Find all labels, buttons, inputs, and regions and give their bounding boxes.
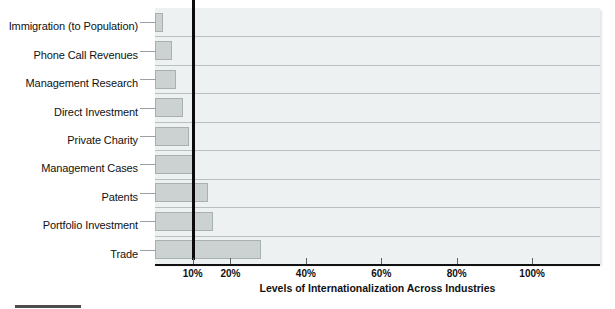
category-label-row: Management Research — [0, 69, 138, 97]
plot-area — [155, 8, 600, 264]
bar — [155, 41, 172, 60]
category-label-row: Patents — [0, 183, 138, 211]
label-leader-line — [140, 221, 156, 222]
category-label: Portfolio Investment — [43, 219, 138, 231]
category-label-row: Direct Investment — [0, 98, 138, 126]
y-axis-labels: Immigration (to Population)Phone Call Re… — [0, 10, 138, 262]
x-axis-tick — [193, 258, 194, 264]
x-axis-tick-label: 10% — [183, 268, 203, 279]
x-axis-tick-label: 80% — [447, 268, 467, 279]
gridline — [155, 122, 600, 123]
bar — [155, 70, 176, 89]
category-label-row: Immigration (to Population) — [0, 12, 138, 40]
bar — [155, 155, 195, 174]
x-axis-line — [155, 264, 600, 266]
category-label: Trade — [110, 248, 138, 260]
x-axis-tick — [381, 258, 382, 264]
bar — [155, 240, 261, 259]
bar — [155, 13, 163, 32]
bar — [155, 98, 183, 117]
x-axis-tick — [532, 258, 533, 264]
category-label-row: Portfolio Investment — [0, 211, 138, 239]
x-axis-tick-label: 40% — [296, 268, 316, 279]
label-leader-line — [140, 193, 156, 194]
x-axis-tick-label: 60% — [371, 268, 391, 279]
x-axis-tick-label: 20% — [220, 268, 240, 279]
category-label-row: Private Charity — [0, 126, 138, 154]
gridline — [155, 179, 600, 180]
category-label-row: Phone Call Revenues — [0, 41, 138, 69]
category-label: Patents — [101, 191, 138, 203]
category-label: Management Cases — [41, 162, 138, 174]
category-label: Direct Investment — [54, 106, 138, 118]
category-label: Phone Call Revenues — [33, 49, 138, 61]
footer-rule — [15, 305, 81, 308]
bar — [155, 212, 213, 231]
x-axis-title: Levels of Internationalization Across In… — [155, 282, 600, 294]
x-axis-tick — [306, 258, 307, 264]
bar — [155, 183, 208, 202]
x-axis-tick — [230, 258, 231, 264]
label-leader-line — [140, 79, 156, 80]
label-leader-line — [140, 22, 156, 23]
x-axis-tick — [457, 258, 458, 264]
category-label: Management Research — [26, 77, 138, 89]
chart-figure: Immigration (to Population)Phone Call Re… — [0, 0, 615, 309]
category-label: Immigration (to Population) — [9, 20, 138, 32]
bar — [155, 127, 189, 146]
label-leader-line — [140, 108, 156, 109]
label-leader-line — [140, 136, 156, 137]
category-label-row: Trade — [0, 240, 138, 268]
gridline — [155, 36, 600, 37]
reference-line-10-percent — [192, 0, 195, 260]
gridline — [155, 207, 600, 208]
gridline — [155, 93, 600, 94]
gridline — [155, 236, 600, 237]
category-label-row: Management Cases — [0, 154, 138, 182]
x-axis-tick-label: 100% — [519, 268, 545, 279]
label-leader-line — [140, 164, 156, 165]
gridline — [155, 65, 600, 66]
label-leader-line — [140, 51, 156, 52]
category-label: Private Charity — [67, 134, 138, 146]
gridline — [155, 150, 600, 151]
label-leader-line — [140, 250, 156, 251]
